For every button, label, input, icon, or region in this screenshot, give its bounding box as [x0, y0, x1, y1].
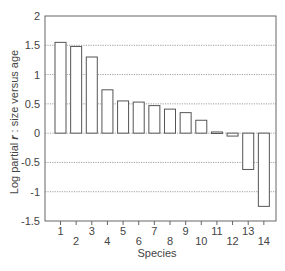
bar [165, 109, 176, 133]
y-label-text-after: : size versus age [8, 50, 20, 136]
bar [149, 106, 160, 134]
y-axis-label: Log partial r : size versus age [8, 50, 20, 194]
y-label-symbol: r [8, 135, 20, 139]
y-axis-ticks: -1.5-1-0.500.511.52 [21, 10, 40, 227]
bar [86, 57, 97, 133]
bar [243, 133, 254, 169]
x-tick-label: 4 [104, 235, 110, 247]
bar [211, 132, 222, 134]
y-tick-label: 1.5 [25, 39, 40, 51]
x-axis-ticks: 1234567891011121314 [57, 221, 270, 247]
x-tick-label: 13 [242, 225, 254, 237]
x-tick-label: 2 [73, 235, 79, 247]
x-tick-label: 14 [258, 235, 270, 247]
x-tick-label: 10 [195, 235, 207, 247]
x-tick-label: 5 [120, 225, 126, 237]
bar-chart: -1.5-1-0.500.511.52 1234567891011121314 … [0, 0, 285, 271]
y-tick-label: -1.5 [21, 215, 40, 227]
x-tick-label: 1 [57, 225, 63, 237]
bar [102, 90, 113, 133]
x-tick-label: 9 [183, 225, 189, 237]
bar [196, 120, 207, 133]
x-tick-label: 7 [151, 225, 157, 237]
y-label-text-before: Log partial [8, 140, 20, 194]
bar [227, 133, 238, 136]
x-tick-label: 12 [226, 235, 238, 247]
bar [71, 46, 82, 133]
bar-series [55, 42, 269, 206]
y-tick-label: 0.5 [25, 98, 40, 110]
x-tick-label: 3 [89, 225, 95, 237]
y-tick-label: 0 [34, 127, 40, 139]
y-tick-label: -1 [30, 186, 40, 198]
y-tick-label: -0.5 [21, 156, 40, 168]
bar [180, 113, 191, 133]
bar [118, 101, 129, 133]
y-tick-label: 2 [34, 10, 40, 22]
x-tick-label: 11 [211, 225, 222, 237]
bar [258, 133, 269, 206]
y-tick-label: 1 [34, 69, 40, 81]
x-axis-label: Species [137, 247, 177, 259]
bar [55, 42, 66, 133]
x-tick-label: 8 [167, 235, 173, 247]
x-tick-label: 6 [136, 235, 142, 247]
bar [133, 102, 144, 133]
